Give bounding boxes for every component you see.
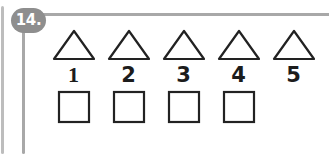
numeral-label: 2 <box>101 64 156 86</box>
exercise-body: 1 2 3 4 5 <box>46 28 321 146</box>
answer-box[interactable] <box>167 90 201 124</box>
page-frame-top-rule <box>25 13 329 16</box>
answer-box[interactable] <box>112 90 146 124</box>
triangle-cell-5 <box>266 28 321 62</box>
triangle-cell-3 <box>156 28 211 62</box>
answer-box-cell-1 <box>46 90 101 130</box>
triangle-icon <box>216 28 262 62</box>
answer-box-cell-2 <box>101 90 156 130</box>
answer-box[interactable] <box>57 90 91 124</box>
numeral-cell-2: 2 <box>101 64 156 88</box>
triangle-cell-1 <box>46 28 101 62</box>
numeral-row: 1 2 3 4 5 <box>46 64 321 88</box>
numeral-label: 3 <box>156 64 211 86</box>
answer-box[interactable] <box>222 90 256 124</box>
numeral-cell-5: 5 <box>266 64 321 88</box>
numeral-label: 5 <box>266 64 321 86</box>
worksheet-page: 14. <box>0 0 329 154</box>
page-frame-inner-rule <box>22 20 25 154</box>
triangle-icon <box>106 28 152 62</box>
numeral-label: 4 <box>211 64 266 86</box>
problem-number-badge: 14. <box>11 8 46 33</box>
triangle-row <box>46 28 321 62</box>
triangle-icon <box>161 28 207 62</box>
page-frame-outer-rule <box>1 6 4 154</box>
numeral-label: 1 <box>46 64 101 86</box>
answer-box-row <box>46 90 321 130</box>
numeral-cell-3: 3 <box>156 64 211 88</box>
triangle-icon <box>51 28 97 62</box>
answer-box-cell-4 <box>211 90 266 130</box>
triangle-icon <box>271 28 317 62</box>
triangle-cell-2 <box>101 28 156 62</box>
numeral-cell-4: 4 <box>211 64 266 88</box>
triangle-cell-4 <box>211 28 266 62</box>
numeral-cell-1: 1 <box>46 64 101 88</box>
answer-box-cell-3 <box>156 90 211 130</box>
